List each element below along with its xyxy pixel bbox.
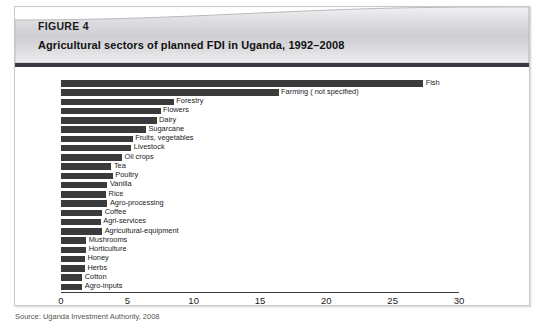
bar-value-label: Sugarcane [146,124,184,134]
bar [61,265,85,272]
bar-row: Herbs [61,264,459,273]
bar [61,108,161,115]
bar-value-label: Poultry [113,170,139,180]
bar [61,274,82,281]
header-divider-bar [15,63,529,67]
bar-value-label: Cotton [82,272,106,282]
bar-row: Flowers [61,107,459,116]
bar [61,89,279,96]
bar-value-label: Agri-services [101,216,146,226]
bar [61,136,133,143]
x-tick-label: 20 [321,295,332,306]
x-axis-tick-labels: 051015202530 [61,295,459,311]
bar-value-label: Livestock [131,142,164,152]
bar-value-label: Fish [423,78,439,88]
bar-row: Sugarcane [61,125,459,134]
x-tick-label: 5 [125,295,130,306]
bar-value-label: Agro-processing [107,198,163,208]
bar [61,99,174,106]
header-banner-shape [15,7,529,63]
bar [61,182,107,189]
bar-value-label: Coffee [102,207,126,217]
bar [61,154,122,161]
bar-row: Farming ( not specified) [61,88,459,97]
bar [61,191,106,198]
bar [61,210,102,217]
bar [61,237,86,244]
bar-value-label: Flowers [161,105,189,115]
bar [61,145,131,152]
bar-value-label: Fruits, vegetables [133,133,194,143]
bar [61,219,101,226]
x-tick-label: 0 [58,295,63,306]
bar-value-label: Oil crops [122,152,154,162]
x-tick-label: 30 [454,295,465,306]
bar [61,256,85,263]
bar-value-label: Rice [106,189,123,199]
bar-row: Forestry [61,98,459,107]
bar-value-label: Forestry [174,96,204,106]
bar-row: Horticulture [61,246,459,255]
bar-value-label: Farming ( not specified) [279,87,359,97]
bar-value-label: Honey [85,253,109,263]
bar-chart-plot-area: FishFarming ( not specified)ForestryFlow… [61,79,459,292]
x-tick-label: 25 [387,295,398,306]
bar [61,284,82,291]
figure-header-banner [15,7,529,63]
bar-value-label: Agricultural-equipment [102,226,178,236]
bar-value-label: Dairy [157,115,177,125]
bar-row: Livestock [61,144,459,153]
bar [61,173,113,180]
bar-value-label: Mushrooms [86,235,127,245]
bar-value-label: Agro-inputs [82,281,122,291]
source-note: Source: Uganda Investment Authority, 200… [15,312,160,321]
bar-value-label: Vanilla [107,179,131,189]
x-axis-line [61,292,459,293]
bar-row: Fish [61,79,459,88]
bar-row: Honey [61,255,459,264]
bar-value-label: Tea [111,161,125,171]
bar [61,200,107,207]
bar [61,247,86,254]
bar [61,228,102,235]
x-tick-label: 15 [255,295,266,306]
bar [61,126,146,133]
bar [61,117,157,124]
bar-row: Fruits, vegetables [61,135,459,144]
x-tick-label: 10 [188,295,199,306]
bar [61,163,111,170]
bar-row: Agro-inputs [61,283,459,292]
bar-value-label: Horticulture [86,244,126,254]
bar [61,80,423,87]
figure-root: FIGURE 4 Agricultural sectors of planned… [0,0,542,321]
bar-value-label: Herbs [85,263,107,273]
bar-row: Dairy [61,116,459,125]
